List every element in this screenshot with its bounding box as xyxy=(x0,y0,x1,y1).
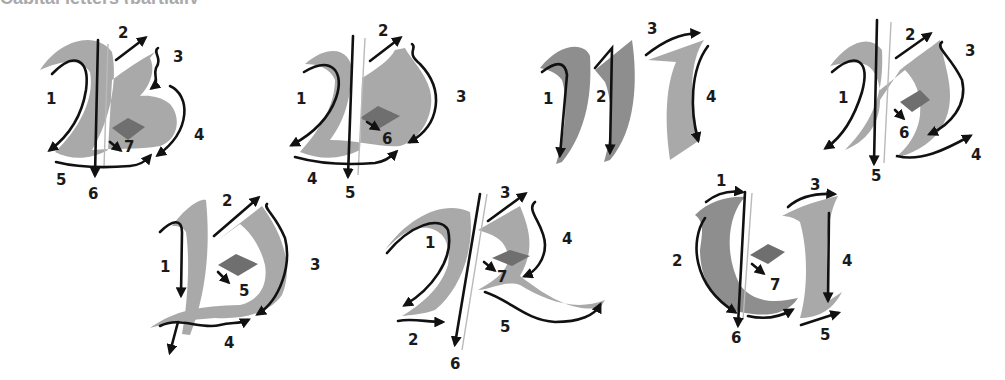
stroke-label: 5 xyxy=(56,171,66,189)
stroke-7-arrow xyxy=(752,264,763,273)
letter-n: 1 2 3 4 5 6 xyxy=(826,20,981,185)
letter-r: 1 2 3 4 5 6 7 xyxy=(385,184,605,373)
stroke-5-arrow xyxy=(874,20,877,163)
stroke-label: 6 xyxy=(88,185,98,203)
diamond-shape xyxy=(218,254,258,276)
stroke-label: 5 xyxy=(500,318,510,336)
stroke-label: 2 xyxy=(596,88,606,106)
letter-b: 1 2 3 4 5 6 7 xyxy=(40,24,204,203)
stroke-label: 2 xyxy=(118,24,128,42)
stroke-label: 2 xyxy=(672,252,682,270)
letter-m-stroke-3-brush xyxy=(648,40,704,160)
stroke-label: 3 xyxy=(965,42,975,60)
stroke-label: 2 xyxy=(905,26,915,44)
stroke-label: 4 xyxy=(562,230,572,248)
stroke-label: 6 xyxy=(731,329,741,347)
stroke-label: 7 xyxy=(770,276,780,294)
stroke-5-arrow xyxy=(348,36,353,176)
stroke-label: 4 xyxy=(194,126,204,144)
stroke-2-arrow xyxy=(398,320,442,322)
stroke-label: 1 xyxy=(160,258,170,276)
stroke-label: 1 xyxy=(46,90,56,108)
stroke-label: 2 xyxy=(378,22,388,40)
stroke-label: 3 xyxy=(456,88,466,106)
stroke-label: 5 xyxy=(345,184,355,202)
stroke-7-arrow xyxy=(484,262,494,270)
stroke-label: 4 xyxy=(971,146,981,164)
stroke-label: 1 xyxy=(296,90,306,108)
stroke-label: 2 xyxy=(222,192,232,210)
letter-m: 1 2 3 4 xyxy=(540,20,716,164)
letter-u: 1 2 3 4 5 6 7 xyxy=(672,172,852,347)
stroke-order-diagram: 1 2 3 4 5 6 7 1 2 3 4 5 6 1 2 3 4 xyxy=(0,0,1005,380)
stroke-label: 3 xyxy=(310,256,320,274)
stroke-4-arrow xyxy=(828,213,829,300)
stroke-label: 4 xyxy=(307,170,317,188)
stroke-label: 1 xyxy=(716,172,726,190)
stroke-label: 4 xyxy=(842,252,852,270)
stroke-label: 5 xyxy=(820,326,830,344)
stroke-label: 7 xyxy=(124,138,134,156)
stroke-label: 1 xyxy=(543,90,553,108)
diamond-shape xyxy=(750,244,785,264)
stroke-label: 1 xyxy=(425,234,435,252)
stroke-label: 5 xyxy=(239,282,249,300)
stroke-label: 1 xyxy=(838,89,848,107)
stroke-label: 4 xyxy=(224,334,234,352)
stroke-label: 5 xyxy=(871,167,881,185)
stroke-label: 4 xyxy=(706,88,716,106)
stroke-label: 3 xyxy=(647,20,657,38)
letter-u-left-brush xyxy=(695,197,798,315)
stroke-5-arrow xyxy=(218,272,228,282)
stroke-label: 7 xyxy=(497,268,507,286)
stroke-4b-arrow xyxy=(170,322,178,352)
stroke-label: 3 xyxy=(173,48,183,66)
stroke-label: 3 xyxy=(500,184,510,202)
stroke-label: 6 xyxy=(450,355,460,373)
stroke-label: 6 xyxy=(382,130,392,148)
letter-p: 1 2 3 4 5 xyxy=(150,192,320,352)
stroke-5-arrow xyxy=(56,156,150,167)
letter-d: 1 2 3 4 5 6 xyxy=(292,22,466,202)
stroke-label: 6 xyxy=(899,124,909,142)
stroke-label: 3 xyxy=(810,176,820,194)
stroke-label: 2 xyxy=(408,331,418,349)
stroke-6-arrow xyxy=(895,110,903,118)
